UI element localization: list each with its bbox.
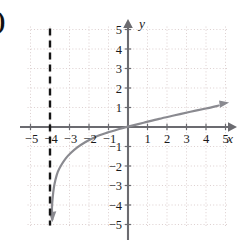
figure-container: ) −5−4−3−2−112345 54321−1−2−3−4−5 x y	[0, 0, 242, 248]
y-tick-label: 3	[116, 62, 122, 76]
y-tick-label: 2	[116, 82, 122, 96]
x-tick-label: 3	[183, 132, 189, 146]
y-tick-label: −4	[109, 199, 123, 213]
x-tick-label: −3	[64, 132, 77, 146]
x-axis-label: x	[226, 131, 233, 146]
x-axis-tick-labels: −5−4−3−2−112345	[25, 132, 229, 146]
x-tick-label: −2	[83, 132, 96, 146]
y-axis-label: y	[137, 16, 145, 31]
x-tick-label: 1	[144, 132, 150, 146]
y-tick-label: −3	[109, 179, 122, 193]
x-tick-label: 2	[164, 132, 170, 146]
function-curve-group	[49, 101, 229, 223]
x-tick-label: −4	[44, 132, 58, 146]
curve-arrowhead-up-right	[219, 101, 229, 108]
y-tick-label: −5	[109, 218, 122, 232]
logarithmic-curve-path	[52, 106, 219, 220]
x-tick-label: 4	[203, 132, 210, 146]
y-tick-label: 4	[116, 43, 123, 57]
coordinate-plane-graph: −5−4−3−2−112345 54321−1−2−3−4−5 x y	[0, 0, 242, 248]
y-tick-label: 1	[116, 101, 122, 115]
y-tick-label: 5	[116, 23, 122, 37]
y-axis-arrowhead	[123, 19, 133, 28]
y-tick-label: −1	[109, 140, 122, 154]
x-tick-label: −5	[25, 132, 38, 146]
y-tick-label: −2	[109, 160, 122, 174]
